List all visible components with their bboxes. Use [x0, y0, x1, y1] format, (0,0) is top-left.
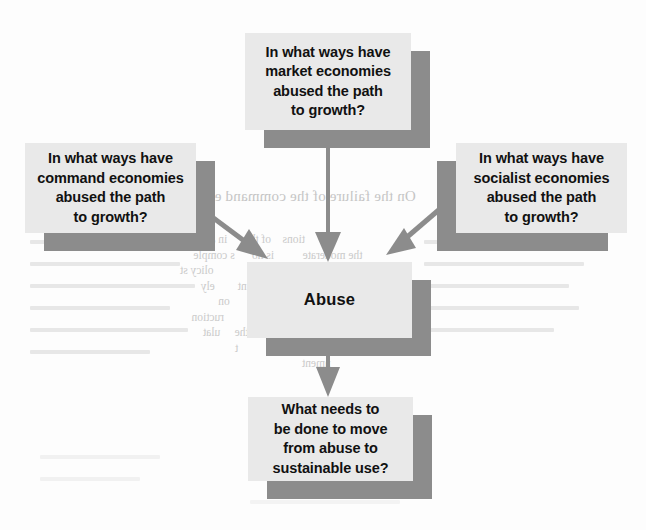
arrow-market-to-abuse: [315, 140, 341, 262]
bleed-rule: [30, 328, 188, 332]
bleed-rule: [30, 284, 195, 288]
node-label: In what ways have market economies abuse…: [265, 43, 391, 121]
node-face[interactable]: What needs to be done to move from abuse…: [248, 397, 413, 481]
bleed-rule: [30, 262, 180, 266]
node-face[interactable]: In what ways have socialist economies ab…: [456, 143, 627, 233]
bleed-rule: [424, 262, 584, 266]
node-label: In what ways have command economies abus…: [37, 149, 184, 227]
node-label: Abuse: [304, 290, 355, 310]
bleed-rule: [250, 500, 400, 504]
bleed-heading: On the failure of the command eco: [200, 188, 416, 205]
bleed-rule: [40, 477, 140, 481]
bleed-rule: [40, 455, 160, 459]
bleed-rule: [30, 306, 170, 310]
node-face[interactable]: In what ways have command economies abus…: [25, 143, 196, 233]
node-label: In what ways have socialist economies ab…: [474, 149, 610, 227]
bleed-rule: [424, 284, 569, 288]
node-face[interactable]: Abuse: [247, 262, 412, 338]
node-face[interactable]: In what ways have market economies abuse…: [245, 33, 411, 130]
bleed-rule: [424, 328, 554, 332]
bleed-rule: [424, 306, 579, 310]
bleed-rule: [30, 350, 150, 354]
node-label: What needs to be done to move from abuse…: [272, 400, 388, 478]
diagram-canvas: On the failure of the command eco tions …: [0, 0, 646, 530]
